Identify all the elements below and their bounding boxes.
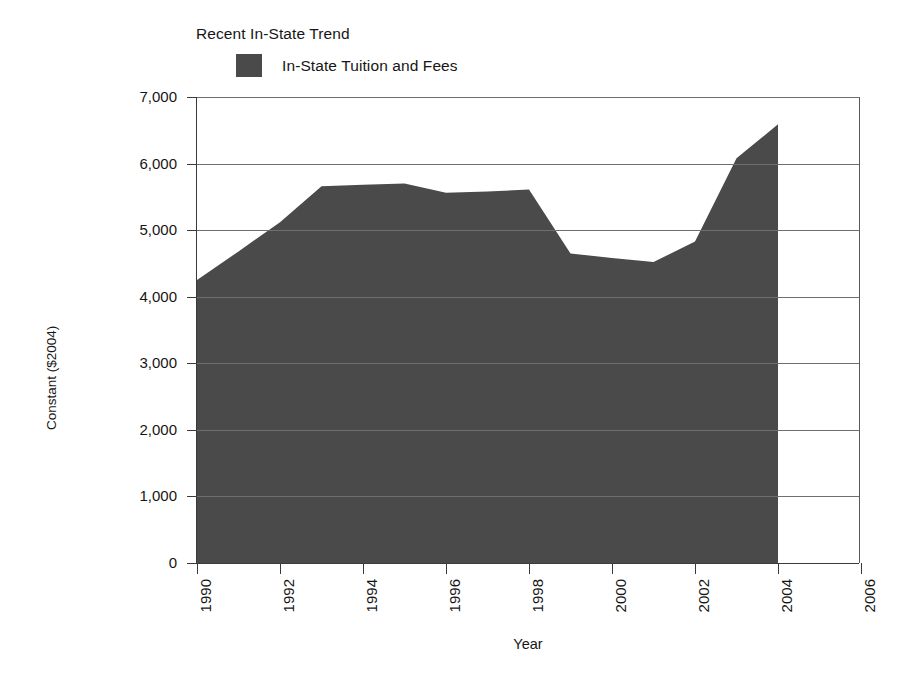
x-tick-label-1994: 1994 bbox=[363, 579, 380, 612]
y-tick-label-0: 0 bbox=[91, 554, 177, 571]
y-tick-mark-7000 bbox=[187, 97, 197, 98]
y-tick-label-4000: 4,000 bbox=[91, 288, 177, 305]
y-tick-mark-2000 bbox=[187, 430, 197, 431]
gridline-3000 bbox=[197, 363, 859, 364]
plot-area: 01,0002,0003,0004,0005,0006,0007,000 199… bbox=[196, 97, 860, 563]
x-tick-mark-1996 bbox=[446, 563, 447, 574]
y-axis-title: Constant ($2004) bbox=[44, 190, 59, 430]
y-tick-label-5000: 5,000 bbox=[91, 221, 177, 238]
gridline-0 bbox=[197, 563, 859, 564]
y-tick-label-3000: 3,000 bbox=[91, 354, 177, 371]
y-tick-mark-6000 bbox=[187, 164, 197, 165]
area-series-in-state-tuition-and-fees bbox=[197, 97, 861, 563]
x-tick-label-1990: 1990 bbox=[197, 579, 214, 612]
x-tick-mark-2000 bbox=[612, 563, 613, 574]
x-tick-mark-2006 bbox=[861, 563, 862, 574]
gridline-5000 bbox=[197, 230, 859, 231]
y-tick-mark-5000 bbox=[187, 230, 197, 231]
x-tick-mark-1990 bbox=[197, 563, 198, 574]
gridline-2000 bbox=[197, 430, 859, 431]
x-tick-mark-1998 bbox=[529, 563, 530, 574]
x-tick-label-2006: 2006 bbox=[861, 579, 878, 612]
x-tick-label-1992: 1992 bbox=[280, 579, 297, 612]
chart-container: Recent In-State Trend In-State Tuition a… bbox=[0, 0, 907, 685]
y-tick-label-1000: 1,000 bbox=[91, 487, 177, 504]
chart-title: Recent In-State Trend bbox=[196, 25, 350, 43]
gridline-4000 bbox=[197, 297, 859, 298]
y-tick-label-7000: 7,000 bbox=[91, 88, 177, 105]
x-axis-title: Year bbox=[196, 636, 860, 652]
y-tick-mark-3000 bbox=[187, 363, 197, 364]
y-tick-mark-4000 bbox=[187, 297, 197, 298]
gridline-6000 bbox=[197, 164, 859, 165]
y-tick-mark-0 bbox=[187, 563, 197, 564]
y-tick-mark-1000 bbox=[187, 496, 197, 497]
gridline-7000 bbox=[197, 97, 859, 98]
chart-legend: In-State Tuition and Fees bbox=[236, 54, 458, 77]
x-tick-label-2004: 2004 bbox=[778, 579, 795, 612]
x-tick-label-1996: 1996 bbox=[446, 579, 463, 612]
y-tick-label-2000: 2,000 bbox=[91, 421, 177, 438]
legend-swatch-in-state-tuition-and-fees bbox=[236, 54, 262, 77]
x-tick-mark-2002 bbox=[695, 563, 696, 574]
x-tick-label-1998: 1998 bbox=[529, 579, 546, 612]
y-tick-label-6000: 6,000 bbox=[91, 155, 177, 172]
gridline-1000 bbox=[197, 496, 859, 497]
x-tick-mark-2004 bbox=[778, 563, 779, 574]
x-tick-mark-1992 bbox=[280, 563, 281, 574]
x-tick-label-2002: 2002 bbox=[695, 579, 712, 612]
legend-label-in-state-tuition-and-fees: In-State Tuition and Fees bbox=[282, 57, 458, 75]
x-tick-mark-1994 bbox=[363, 563, 364, 574]
x-tick-label-2000: 2000 bbox=[612, 579, 629, 612]
